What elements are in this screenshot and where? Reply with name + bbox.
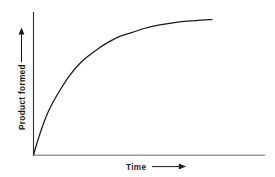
plot-canvas: Product formed Time: [0, 0, 275, 177]
x-axis-label: Time: [126, 163, 146, 172]
up-arrow-icon: [19, 28, 25, 63]
figure-container: Product formed Time: [0, 0, 275, 177]
right-arrow-icon: [152, 164, 186, 170]
data-curve-product-formed: [34, 20, 213, 155]
y-axis-label: Product formed: [18, 64, 27, 130]
